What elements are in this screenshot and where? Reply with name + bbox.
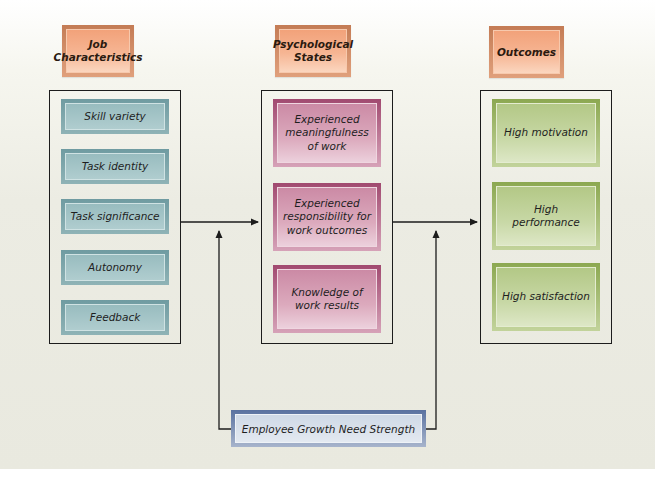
job-characteristic-skill-variety: Skill variety bbox=[61, 99, 169, 134]
header-psychological-states: Psychological States bbox=[275, 25, 351, 77]
header-outcomes-label: Outcomes bbox=[493, 30, 560, 74]
header-psychological-states-label: Psychological States bbox=[279, 29, 347, 73]
header-job-characteristics: Job Characteristics bbox=[62, 25, 134, 77]
outcome-high-performance: High performance bbox=[492, 182, 600, 250]
psychological-states-group: Experienced meaningfulness of work Exper… bbox=[261, 90, 393, 344]
outcome-high-motivation: High motivation bbox=[492, 99, 600, 167]
employee-growth-need-strength: Employee Growth Need Strength bbox=[231, 410, 426, 447]
psychological-state-label: Experienced meaningfulness of work bbox=[277, 103, 377, 163]
job-characteristic-task-identity: Task identity bbox=[61, 149, 169, 184]
job-characteristic-task-significance: Task significance bbox=[61, 199, 169, 234]
employee-growth-need-strength-label: Employee Growth Need Strength bbox=[235, 414, 422, 443]
psychological-state-responsibility: Experienced responsibility for work outc… bbox=[273, 183, 381, 251]
job-characteristic-label: Feedback bbox=[65, 304, 165, 331]
job-characteristics-group: Skill variety Task identity Task signifi… bbox=[49, 90, 181, 344]
job-characteristic-label: Task identity bbox=[65, 153, 165, 180]
outcome-label: High performance bbox=[496, 186, 596, 246]
outcome-label: High satisfaction bbox=[496, 267, 596, 327]
psychological-state-label: Experienced responsibility for work outc… bbox=[277, 187, 377, 247]
header-outcomes: Outcomes bbox=[489, 26, 564, 78]
header-job-characteristics-label: Job Characteristics bbox=[66, 29, 130, 73]
job-characteristic-label: Task significance bbox=[65, 203, 165, 230]
psychological-state-knowledge: Knowledge of work results bbox=[273, 265, 381, 333]
psychological-state-label: Knowledge of work results bbox=[277, 269, 377, 329]
outcome-label: High motivation bbox=[496, 103, 596, 163]
job-characteristic-label: Skill variety bbox=[65, 103, 165, 130]
outcome-high-satisfaction: High satisfaction bbox=[492, 263, 600, 331]
outcomes-group: High motivation High performance High sa… bbox=[480, 90, 612, 344]
psychological-state-meaningfulness: Experienced meaningfulness of work bbox=[273, 99, 381, 167]
job-characteristic-feedback: Feedback bbox=[61, 300, 169, 335]
job-characteristic-label: Autonomy bbox=[65, 254, 165, 281]
job-characteristic-autonomy: Autonomy bbox=[61, 250, 169, 285]
